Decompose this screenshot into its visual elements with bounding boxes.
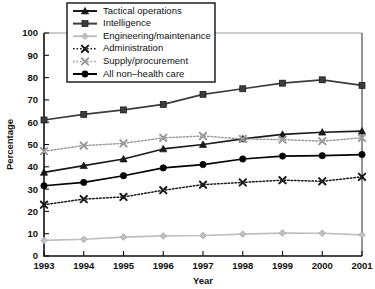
y-tick-label-10: 10 — [27, 228, 38, 239]
legend-marker-5 — [82, 71, 88, 77]
legend-marker-1 — [82, 21, 88, 27]
x-tick-label-1993: 1993 — [33, 260, 54, 271]
series-2-point-6 — [279, 230, 286, 237]
series-2-point-4 — [200, 232, 207, 239]
y-tick-label-30: 30 — [27, 184, 38, 195]
y-tick-label-70: 70 — [27, 94, 38, 105]
series-2-point-0 — [41, 237, 48, 244]
series-1-point-5 — [240, 86, 246, 92]
series-1-point-8 — [359, 82, 365, 88]
y-tick-label-40: 40 — [27, 161, 38, 172]
x-tick-label-1998: 1998 — [232, 260, 253, 271]
series-1-point-1 — [81, 111, 87, 117]
series-5-point-2 — [120, 173, 126, 179]
x-tick-label-1999: 1999 — [272, 260, 293, 271]
y-tick-label-20: 20 — [27, 206, 38, 217]
x-tick-label-1995: 1995 — [113, 260, 135, 271]
legend-label-4: Supply/procurement — [103, 55, 188, 66]
series-2-point-3 — [160, 233, 167, 240]
series-2-point-2 — [120, 234, 127, 241]
series-1-point-6 — [280, 80, 286, 86]
series-1-point-4 — [200, 91, 206, 97]
y-axis-title: Percentage — [4, 119, 15, 170]
series-2-point-7 — [319, 230, 326, 237]
y-tick-label-50: 50 — [27, 139, 38, 150]
legend-label-5: All non–health care — [103, 68, 184, 79]
legend-label-0: Tactical operations — [103, 5, 182, 16]
y-tick-label-80: 80 — [27, 72, 38, 83]
legend-label-2: Engineering/maintenance — [103, 30, 211, 41]
series-5-point-1 — [81, 179, 87, 185]
y-tick-label-100: 100 — [22, 27, 38, 38]
y-tick-label-90: 90 — [27, 50, 38, 61]
series-2-point-1 — [80, 236, 87, 243]
series-1-point-0 — [41, 117, 47, 123]
series-line-1 — [44, 80, 362, 120]
series-1-point-3 — [160, 101, 166, 107]
series-5-point-4 — [200, 161, 206, 167]
series-5-point-3 — [160, 165, 166, 171]
x-tick-label-1997: 1997 — [192, 260, 213, 271]
x-tick-label-2000: 2000 — [312, 260, 333, 271]
legend-label-1: Intelligence — [103, 17, 151, 28]
line-chart: 0102030405060708090100199319941995199619… — [0, 0, 375, 289]
series-5-point-8 — [359, 151, 365, 157]
x-tick-label-1994: 1994 — [73, 260, 95, 271]
series-2-point-8 — [359, 231, 366, 238]
series-5-point-6 — [279, 153, 285, 159]
legend-label-3: Administration — [103, 42, 163, 53]
chart-canvas: 0102030405060708090100199319941995199619… — [0, 0, 375, 289]
y-tick-label-60: 60 — [27, 117, 38, 128]
x-tick-label-2001: 2001 — [351, 260, 373, 271]
series-2-point-5 — [239, 231, 246, 238]
series-5-point-5 — [240, 156, 246, 162]
x-tick-label-1996: 1996 — [153, 260, 174, 271]
series-1-point-2 — [121, 107, 127, 113]
series-5-point-0 — [41, 183, 47, 189]
x-axis-title: Year — [193, 275, 213, 286]
series-1-point-7 — [319, 77, 325, 83]
series-5-point-7 — [319, 152, 325, 158]
